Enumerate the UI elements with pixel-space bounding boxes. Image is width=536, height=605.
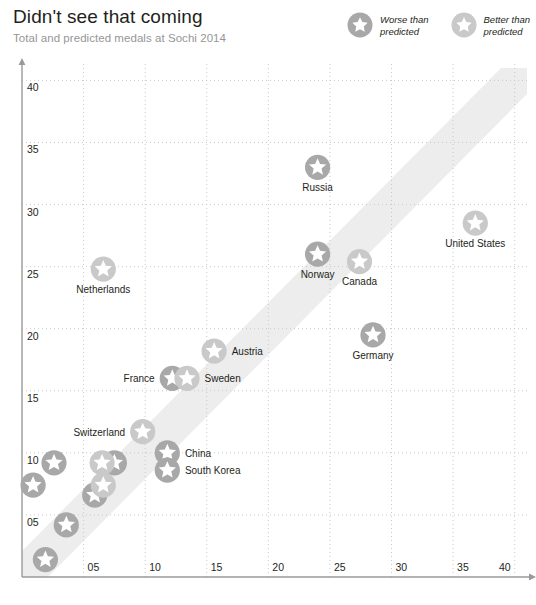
legend-item-better[interactable]: Better than predicted xyxy=(451,12,530,38)
point-label: Austria xyxy=(232,346,264,357)
star-badge-icon xyxy=(451,12,477,38)
data-point[interactable] xyxy=(91,473,116,498)
y-tick-label: 20 xyxy=(27,330,39,342)
data-point[interactable] xyxy=(54,512,79,537)
x-tick-label: 30 xyxy=(396,561,408,573)
point-label: Canada xyxy=(342,276,377,287)
star-badge-icon xyxy=(347,12,373,38)
x-tick-label: 05 xyxy=(88,561,100,573)
x-tick-label: 40 xyxy=(499,561,511,573)
data-point-germany[interactable] xyxy=(360,322,385,347)
point-label: China xyxy=(185,448,212,459)
y-tick-label: 35 xyxy=(27,143,39,155)
data-point-united-states[interactable] xyxy=(463,211,488,236)
legend-item-worse[interactable]: Worse than predicted xyxy=(347,12,429,38)
point-label: Netherlands xyxy=(76,284,130,295)
point-label: Russia xyxy=(302,182,333,193)
point-label: France xyxy=(124,373,156,384)
data-point[interactable] xyxy=(20,473,45,498)
point-label: Sweden xyxy=(205,373,241,384)
point-label: Switzerland xyxy=(73,427,125,438)
chart-page: Didn't see that coming Total and predict… xyxy=(0,0,536,605)
y-tick-label: 05 xyxy=(27,516,39,528)
y-tick-label: 40 xyxy=(27,81,39,93)
point-label: South Korea xyxy=(185,465,241,476)
data-point[interactable] xyxy=(33,547,58,572)
y-tick-label: 25 xyxy=(27,268,39,280)
data-point-south-korea[interactable] xyxy=(155,458,180,483)
scatter-plot-canvas: 05101520253035400510152025303540 RussiaN… xyxy=(0,58,536,605)
data-point[interactable] xyxy=(41,450,66,475)
data-point-sweden[interactable] xyxy=(174,366,199,391)
x-tick-label: 20 xyxy=(272,561,284,573)
x-tick-label: 10 xyxy=(149,561,161,573)
data-point-canada[interactable] xyxy=(347,249,372,274)
x-tick-label: 15 xyxy=(211,561,223,573)
y-tick-label: 15 xyxy=(27,392,39,404)
point-label: United States xyxy=(445,238,505,249)
scatter-plot: 05101520253035400510152025303540 RussiaN… xyxy=(0,58,536,605)
point-label: Norway xyxy=(301,269,335,280)
data-point[interactable] xyxy=(90,450,115,475)
point-label: Germany xyxy=(352,350,393,361)
y-tick-label: 10 xyxy=(27,454,39,466)
chart-legend: Worse than predicted Better than predict… xyxy=(347,12,530,38)
chart-header: Didn't see that coming Total and predict… xyxy=(0,0,536,58)
data-point-austria[interactable] xyxy=(202,339,227,364)
x-tick-label: 35 xyxy=(457,561,469,573)
data-point-russia[interactable] xyxy=(305,155,330,180)
page-title: Didn't see that coming xyxy=(13,6,203,28)
data-point-switzerland[interactable] xyxy=(130,419,155,444)
data-point-norway[interactable] xyxy=(305,242,330,267)
x-tick-label: 25 xyxy=(334,561,346,573)
legend-label-better: Better than predicted xyxy=(484,12,530,37)
page-subtitle: Total and predicted medals at Sochi 2014 xyxy=(13,32,226,44)
legend-label-worse: Worse than predicted xyxy=(380,12,429,37)
y-tick-label: 30 xyxy=(27,206,39,218)
data-point-netherlands[interactable] xyxy=(91,257,116,282)
